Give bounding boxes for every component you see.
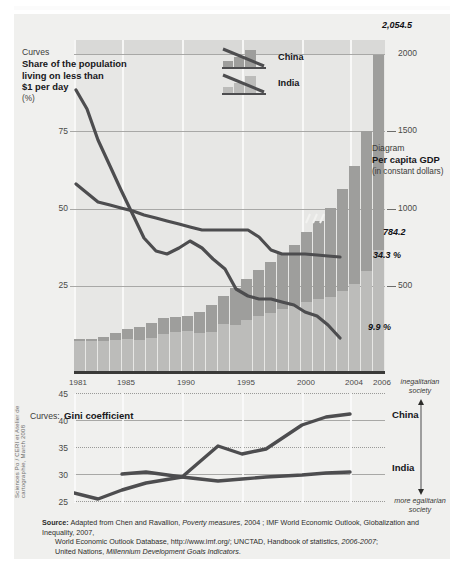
y2-tick-500: 500 — [398, 280, 412, 290]
y2tick-mark-1500 — [387, 131, 396, 132]
curves-caption: Curves Share of the population living on… — [22, 46, 172, 105]
source-line2-b: ; — [376, 537, 378, 546]
source-line-1: Source: Adapted from Chen and Ravallion,… — [42, 518, 442, 537]
source-line3-a: United Nations, — [55, 547, 106, 556]
curves-title-line2: living on less than — [22, 70, 172, 82]
ytick-mark-25 — [70, 286, 82, 287]
legend-label-china: China — [278, 52, 304, 62]
y2tick-mark-1000 — [387, 209, 396, 210]
y-tick-25: 25 — [42, 280, 68, 290]
bar-line-icon — [221, 46, 273, 70]
china-gini-line — [74, 414, 350, 499]
legend-label-india: India — [278, 78, 299, 88]
gini-tick-35: 35 — [44, 443, 68, 453]
note-inegalitarian-l2: society — [409, 386, 431, 395]
ytick-mark-75 — [70, 131, 82, 132]
bar-line-icon — [221, 72, 273, 96]
y2-tick-1500: 1500 — [398, 125, 417, 135]
diagram-kicker: Diagram — [372, 142, 464, 154]
source-line3-b: . — [239, 547, 241, 556]
credit-line: Sciences Po / CERI et Atelier de cartogr… — [14, 378, 26, 498]
source-label: Source: — [42, 518, 69, 527]
diagram-title: Per capita GDP — [372, 154, 464, 166]
source-line-3: United Nations, Millennium Development G… — [42, 547, 442, 557]
source-line-2: World Economic Outlook Database, http://… — [42, 537, 442, 547]
curves-kicker: Curves — [22, 46, 172, 58]
diagram-subtitle: (in constant dollars) — [372, 166, 464, 178]
note-inegalitarian: inegalitarian society — [385, 378, 455, 395]
y-tick-75: 75 — [42, 126, 68, 136]
diagram-caption: Diagram Per capita GDP (in constant doll… — [372, 142, 464, 178]
note-egalitarian-l2: society — [409, 505, 431, 514]
bar-break-marks — [305, 213, 331, 225]
gini-tick-25: 25 — [44, 497, 68, 507]
source-note: Source: Adapted from Chen and Ravallion,… — [42, 518, 442, 556]
gini-chart: 45 40 35 30 25 Curves: Gini coefficient … — [14, 385, 450, 515]
y2tick-mark-500 — [387, 286, 396, 287]
annotation-india-poverty: 34.3 % — [373, 250, 401, 260]
note-egalitarian: more egalitarian society — [385, 497, 455, 514]
source-line1-i: Poverty measures — [182, 518, 240, 527]
gini-title: Gini coefficient — [64, 410, 133, 421]
source-line2-i: 2006-2007 — [342, 537, 376, 546]
y2-tick-2000: 2000 — [398, 48, 417, 58]
annotation-india-gdp: 784.2 — [383, 227, 406, 237]
y-tick-50: 50 — [42, 203, 68, 213]
gini-caption: Curves: Gini coefficient — [30, 405, 133, 423]
legend-item-china: China — [221, 46, 371, 72]
egalitarian-arrow-icon — [415, 398, 427, 496]
source-line1-a: Adapted from Chen and Ravallion, — [70, 518, 182, 527]
top-rule — [14, 6, 450, 10]
legend-item-india: India — [221, 72, 371, 98]
ytick-mark-50 — [70, 209, 82, 210]
curves-title-line3: $1 per day — [22, 81, 172, 93]
legend: China India — [221, 46, 371, 98]
gini-tick-30: 30 — [44, 470, 68, 480]
india-poverty-line — [76, 184, 340, 257]
curves-unit: (%) — [22, 93, 172, 105]
gini-tick-45: 45 — [44, 389, 68, 399]
curves-title-line1: Share of the population — [22, 58, 172, 70]
annotation-peak-gdp: 2,054.5 — [382, 20, 412, 30]
y2-tick-1000: 1000 — [398, 203, 417, 213]
source-line3-i: Millennium Development Goals Indicators — [106, 547, 239, 556]
china-poverty-line — [76, 90, 340, 338]
source-line2-a: World Economic Outlook Database, http://… — [55, 537, 342, 546]
x-axis-line — [74, 371, 385, 374]
annotation-china-poverty: 9.9 % — [368, 322, 391, 332]
chart-page: 75 50 25 2000 1500 1000 500 1981 1985 19… — [0, 0, 464, 574]
gini-series-label-india: India — [392, 462, 414, 473]
gini-kicker: Curves: — [30, 411, 60, 421]
